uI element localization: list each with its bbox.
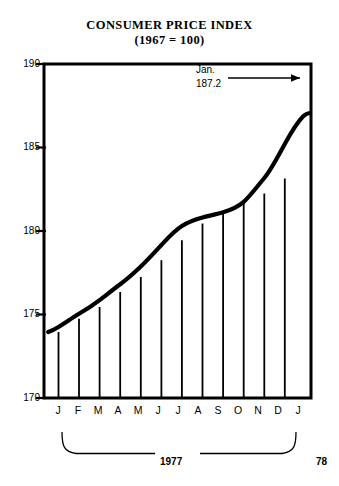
cpi-chart: CONSUMER PRICE INDEX (1967 = 100) 190 18… (0, 0, 339, 486)
chart-graphics (0, 0, 339, 486)
year-brace-1977 (62, 432, 296, 454)
jan-callout-arrow (228, 74, 300, 82)
bar-separators (59, 179, 285, 399)
cpi-curve (48, 113, 310, 332)
